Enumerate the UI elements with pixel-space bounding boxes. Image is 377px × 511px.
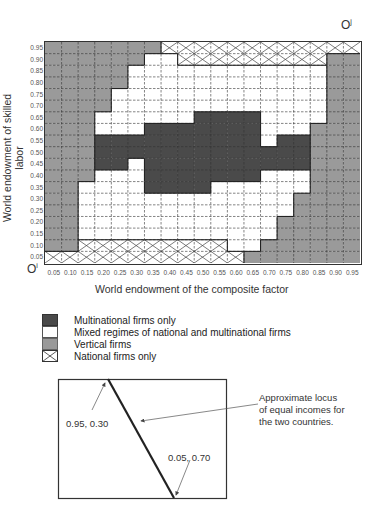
y-tick-label: 0.75 (20, 91, 43, 98)
grid-cell-X (95, 112, 112, 124)
grid-cell-V (111, 77, 128, 89)
grid-cell-M (128, 135, 145, 147)
grid-cell-V (62, 182, 79, 194)
grid-cell-X (161, 89, 178, 101)
grid-cell-M (244, 135, 261, 147)
annotation-line: Approximate locus (259, 392, 345, 404)
grid-cell-V (310, 193, 327, 205)
regime-grid-cells (45, 42, 360, 263)
national-swatch-icon (42, 350, 58, 362)
grid-cell-X (294, 123, 311, 135)
grid-cell-V (327, 89, 344, 101)
grid-cell-V (62, 193, 79, 205)
grid-cell-X (261, 89, 278, 101)
grid-cell-M (194, 135, 211, 147)
grid-cell-V (128, 42, 145, 54)
grid-cell-V (294, 193, 311, 205)
x-axis-label: World endowment of the composite factor (95, 283, 289, 295)
grid-cell-V (78, 65, 95, 77)
x-tick-label: 0.95 (343, 269, 361, 276)
grid-cell-V (95, 65, 112, 77)
grid-cell-M (144, 182, 161, 194)
grid-cell-M (194, 170, 211, 182)
grid-cell-V (327, 251, 344, 263)
grid-cell-X (144, 205, 161, 217)
grid-cell-M (277, 147, 294, 159)
grid-cell-X (178, 205, 195, 217)
grid-cell-M (277, 135, 294, 147)
x-tick-label: 0.35 (144, 269, 162, 276)
grid-cell-X (261, 100, 278, 112)
mixed-swatch-icon (42, 326, 58, 338)
multinational-swatch-icon (42, 314, 58, 326)
annotation-line: of equal incomes for (259, 404, 345, 416)
grid-cell-X (111, 123, 128, 135)
grid-cell-V (45, 205, 62, 217)
legend-label: National firms only (74, 351, 156, 362)
grid-cell-X (128, 170, 145, 182)
grid-cell-M (161, 158, 178, 170)
grid-cell-M (161, 170, 178, 182)
grid-cell-X (95, 205, 112, 217)
grid-cell-V (62, 112, 79, 124)
grid-cell-X (95, 182, 112, 194)
grid-cell-X (211, 89, 228, 101)
grid-cell-V (45, 112, 62, 124)
grid-cell-V (310, 147, 327, 159)
grid-cell-V (111, 54, 128, 66)
grid-cell-V (62, 123, 79, 135)
grid-cell-V (45, 65, 62, 77)
grid-cell-M (178, 158, 195, 170)
grid-cell-M (227, 147, 244, 159)
grid-cell-M (211, 123, 228, 135)
equal-income-locus-line (108, 379, 174, 498)
grid-cell-X (161, 54, 178, 66)
grid-cell-M (211, 112, 228, 124)
grid-cell-M (161, 182, 178, 194)
grid-cell-M (211, 135, 228, 147)
y-tick-label: 0.80 (20, 79, 43, 86)
grid-cell-M (111, 135, 128, 147)
grid-cell-X (227, 205, 244, 217)
grid-cell-V (343, 100, 360, 112)
x-tick-label: 0.05 (45, 269, 63, 276)
grid-cell-M (178, 182, 195, 194)
origin-j-label: Oj (341, 18, 352, 32)
grid-cell-X (244, 77, 261, 89)
grid-cell-X (244, 216, 261, 228)
grid-cell-M (178, 147, 195, 159)
grid-cell-V (343, 251, 360, 263)
grid-cell-X (244, 89, 261, 101)
grid-cell-V (327, 228, 344, 240)
grid-cell-V (95, 54, 112, 66)
grid-cell-M (161, 135, 178, 147)
grid-cell-X (111, 182, 128, 194)
x-tick-label: 0.90 (327, 269, 345, 276)
grid-cell-M (211, 170, 228, 182)
x-tick-label: 0.70 (260, 269, 278, 276)
grid-cell-X (194, 193, 211, 205)
grid-cell-X (128, 77, 145, 89)
grid-cell-M (178, 123, 195, 135)
grid-cell-X (111, 228, 128, 240)
grid-cell-V (327, 216, 344, 228)
locus-annotation: Approximate locus of equal incomes for t… (259, 392, 345, 428)
grid-cell-V (78, 77, 95, 89)
grid-cell-X (178, 65, 195, 77)
grid-cell-X (261, 193, 278, 205)
bottom-point-label: 0.05, 0.70 (168, 452, 210, 464)
grid-cell-X (161, 77, 178, 89)
grid-cell-M (95, 147, 112, 159)
grid-cell-X (128, 182, 145, 194)
y-tick-label: 0.10 (20, 242, 43, 249)
grid-cell-V (343, 65, 360, 77)
grid-cell-V (45, 100, 62, 112)
grid-cell-X (261, 123, 278, 135)
grid-cell-X (211, 216, 228, 228)
grid-cell-M (261, 147, 278, 159)
grid-cell-X (144, 77, 161, 89)
grid-cell-V (45, 240, 62, 252)
origin-i-label: Oi (27, 262, 38, 276)
grid-cell-V (62, 240, 79, 252)
grid-cell-X (244, 65, 261, 77)
